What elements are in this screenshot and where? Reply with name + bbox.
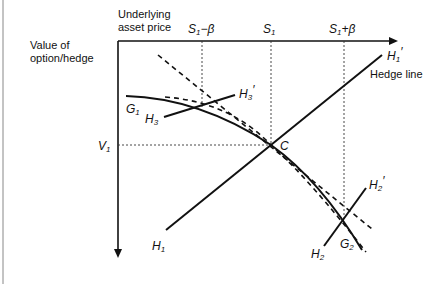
x-axis-arrow-icon (389, 37, 398, 45)
label-s1-plus-beta: S1+β (329, 22, 355, 37)
y-axis-title-1: Value of (30, 39, 70, 51)
label-h1: H1 (152, 239, 165, 254)
label-v1: V1 (98, 139, 110, 154)
label-h3: H3 (145, 112, 159, 127)
tangent-dashed-steep (158, 55, 372, 229)
label-h3-prime: H3′ (239, 83, 255, 102)
y-axis-arrow-icon (114, 249, 122, 258)
label-s1-minus-beta: S1−β (188, 22, 214, 37)
label-h2-prime: H2′ (369, 174, 385, 193)
x-axis-title-2: asset price (118, 21, 171, 33)
y-axis-title-2: option/hedge (30, 52, 94, 64)
label-s1: S1 (263, 22, 275, 37)
label-g1: G1 (126, 102, 140, 117)
label-c: C (280, 139, 289, 153)
option-hedge-diagram: Underlying asset price Value of option/h… (0, 0, 444, 284)
label-h2: H2 (311, 247, 325, 262)
label-g2: G2 (340, 237, 354, 252)
label-hedge-line: Hedge line (370, 68, 423, 80)
x-axis-title-1: Underlying (118, 8, 171, 20)
option-value-curve (126, 96, 362, 250)
label-h1-prime: H1′ (387, 45, 403, 64)
diagram-canvas: Underlying asset price Value of option/h… (0, 0, 444, 284)
hedge-line-h1 (166, 55, 382, 230)
